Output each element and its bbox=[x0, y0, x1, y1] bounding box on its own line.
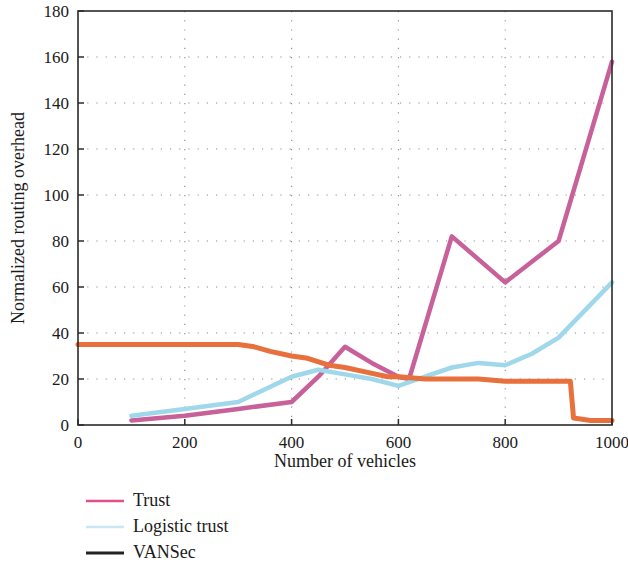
x-tick-label: 400 bbox=[279, 433, 305, 452]
grid-layer bbox=[78, 11, 612, 425]
y-tick-label: 180 bbox=[44, 2, 70, 21]
y-tick-label: 0 bbox=[61, 416, 70, 435]
y-tick-label: 40 bbox=[52, 324, 69, 343]
x-tick-label: 600 bbox=[386, 433, 412, 452]
legend-item-trust: Trust bbox=[86, 490, 170, 510]
x-axis-title: Number of vehicles bbox=[274, 451, 416, 471]
legend-label: VANSec bbox=[133, 542, 196, 562]
y-tick-label: 80 bbox=[52, 232, 69, 251]
axis-ticks bbox=[78, 11, 612, 425]
y-tick-label: 60 bbox=[52, 278, 69, 297]
chart-legend: TrustLogistic trustVANSec bbox=[86, 490, 229, 562]
plot-frame bbox=[78, 11, 612, 425]
y-tick-label: 120 bbox=[44, 140, 70, 159]
x-tick-label: 200 bbox=[172, 433, 198, 452]
chart-figure: 0204060801001201401601800200400600800100… bbox=[0, 0, 628, 566]
legend-item-logistic-trust: Logistic trust bbox=[86, 516, 229, 536]
x-tick-label: 800 bbox=[492, 433, 518, 452]
legend-item-vansec: VANSec bbox=[86, 542, 196, 562]
y-tick-label: 140 bbox=[44, 94, 70, 113]
x-tick-label: 1000 bbox=[595, 433, 628, 452]
series-line-trust bbox=[131, 62, 612, 421]
x-tick-label: 0 bbox=[74, 433, 83, 452]
chart-canvas: 0204060801001201401601800200400600800100… bbox=[0, 0, 628, 566]
y-axis-title: Normalized routing overhead bbox=[8, 112, 28, 324]
y-tick-label: 20 bbox=[52, 370, 69, 389]
y-tick-label: 160 bbox=[44, 48, 70, 67]
series-line-logistic-trust bbox=[131, 282, 612, 415]
axis-tick-labels: 0204060801001201401601800200400600800100… bbox=[44, 2, 628, 452]
legend-label: Trust bbox=[133, 490, 170, 510]
y-tick-label: 100 bbox=[44, 186, 70, 205]
legend-label: Logistic trust bbox=[133, 516, 229, 536]
